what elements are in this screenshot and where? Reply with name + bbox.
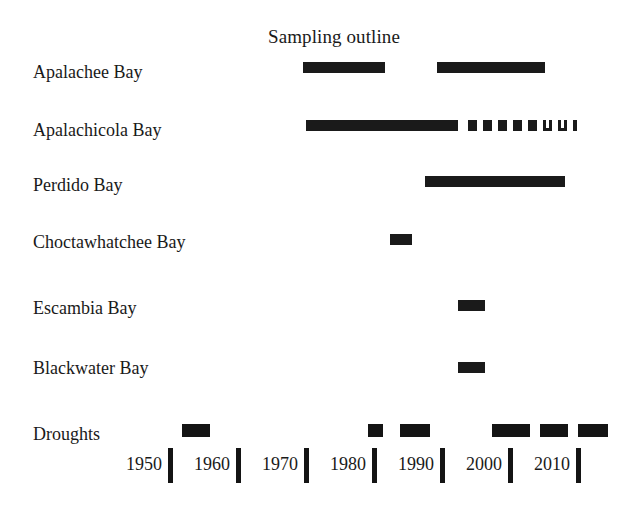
axis-tick-label-1950: 1950 (120, 452, 162, 476)
bar-droughts-1 (182, 424, 210, 437)
axis-tick-label-2000: 2000 (460, 452, 502, 476)
bar-droughts-3 (400, 424, 430, 437)
axis-tick-label-2010: 2010 (528, 452, 570, 476)
bar-apalachicola-bay-4 (498, 120, 508, 131)
sampling-outline-figure: Sampling outline Apalachee BayApalachico… (0, 0, 644, 510)
bar-apalachicola-bay-8 (558, 120, 567, 131)
axis-tick-1960 (236, 448, 241, 483)
axis-tick-label-1970: 1970 (256, 452, 298, 476)
axis-tick-1970 (304, 448, 309, 483)
bar-perdido-bay-1 (425, 176, 565, 187)
axis-tick-1990 (440, 448, 445, 483)
bar-apalachicola-bay-6 (528, 120, 537, 131)
bar-escambia-bay-1 (458, 300, 485, 311)
axis-tick-label-1990: 1990 (392, 452, 434, 476)
axis-tick-1980 (372, 448, 377, 483)
axis-tick-label-1980: 1980 (324, 452, 366, 476)
bar-apalachee-bay-1 (303, 62, 385, 73)
bar-apalachicola-bay-3 (483, 120, 492, 131)
time-axis: 1950196019701980199020002010 (0, 440, 644, 510)
axis-tick-label-1960: 1960 (188, 452, 230, 476)
bar-apalachicola-bay-2 (468, 120, 477, 131)
bar-blackwater-bay-1 (458, 362, 485, 373)
axis-tick-2000 (508, 448, 513, 483)
bar-apalachee-bay-2 (437, 62, 544, 73)
bar-apalachicola-bay-1 (306, 120, 458, 131)
axis-tick-2010 (576, 448, 581, 483)
bar-droughts-2 (368, 424, 383, 437)
bar-choctawhatchee-bay-1 (390, 234, 412, 245)
bar-droughts-5 (540, 424, 568, 437)
bar-droughts-6 (578, 424, 608, 437)
bar-group (0, 0, 644, 510)
bar-apalachicola-bay-9 (573, 120, 576, 131)
axis-tick-1950 (168, 448, 173, 483)
bar-droughts-4 (492, 424, 530, 437)
bar-apalachicola-bay-5 (513, 120, 523, 131)
bar-apalachicola-bay-7 (543, 120, 553, 131)
